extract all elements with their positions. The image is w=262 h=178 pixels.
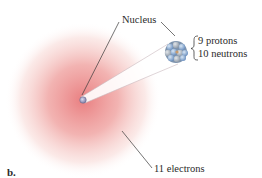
atom-diagram bbox=[0, 0, 262, 178]
electrons-label: 11 electrons bbox=[154, 163, 205, 175]
enlarged-nucleus bbox=[165, 41, 188, 63]
panel-label: b. bbox=[7, 166, 16, 178]
nucleus-dot bbox=[80, 97, 87, 104]
protons-label: 9 protons bbox=[198, 35, 237, 47]
nucleus-label: Nucleus bbox=[122, 14, 156, 26]
brace bbox=[191, 36, 198, 60]
nucleus-leader-right bbox=[161, 22, 175, 36]
neutrons-label: 10 neutrons bbox=[198, 48, 247, 60]
